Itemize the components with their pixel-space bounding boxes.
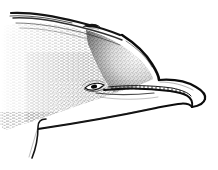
illustration-figure: Black and white stippled line drawing of… bbox=[0, 0, 218, 170]
dolphin-head-drawing bbox=[0, 0, 218, 170]
body-fade bbox=[0, 34, 16, 126]
